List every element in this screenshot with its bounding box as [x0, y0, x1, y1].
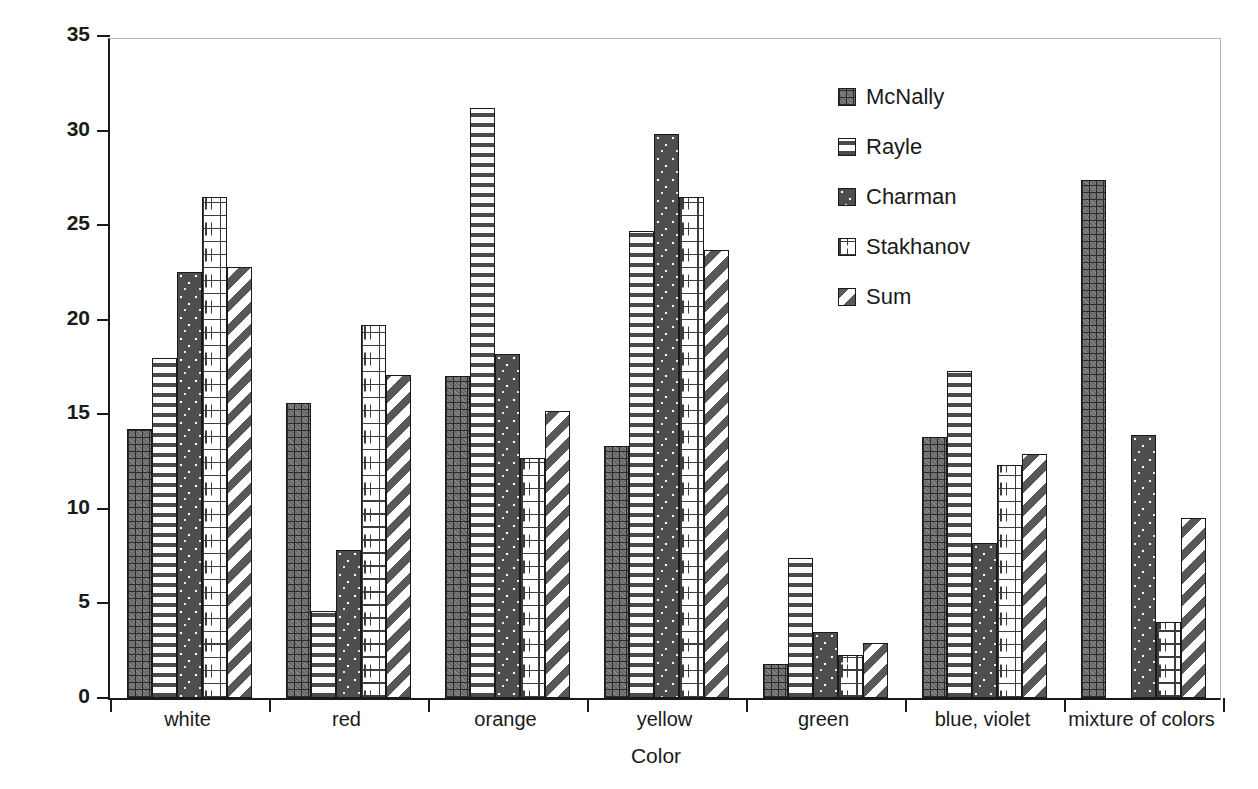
bar [997, 465, 1022, 698]
legend-item: Sum [838, 280, 1088, 313]
x-axis-category-label: red [332, 708, 361, 731]
y-axis-tick-mark [97, 602, 110, 604]
x-axis-title: Color [0, 744, 1258, 768]
y-axis-tick: 0 [66, 697, 110, 698]
bar [1156, 622, 1181, 698]
y-axis-tick-label: 25 [67, 211, 90, 235]
bar [679, 197, 704, 698]
bar-chart-figure: Percentage of Sample 05101520253035 whit… [0, 0, 1258, 789]
bar [311, 611, 336, 698]
y-axis-tick-mark [97, 224, 110, 226]
legend-swatch-icon [838, 188, 856, 206]
bar [788, 558, 813, 698]
legend-item-label: Sum [866, 284, 911, 310]
bar [922, 437, 947, 698]
bar [127, 429, 152, 698]
bar [1181, 518, 1206, 698]
y-axis-tick: 25 [66, 224, 110, 225]
y-axis-tick-mark [97, 697, 110, 699]
y-axis-tick: 10 [66, 508, 110, 509]
y-axis-tick-label: 0 [78, 684, 90, 708]
legend-swatch-icon [838, 238, 856, 256]
bar [863, 643, 888, 698]
bar [972, 543, 997, 698]
x-axis-category-label: mixture of colors [1068, 708, 1215, 731]
bar [286, 403, 311, 698]
x-axis-tick [1064, 698, 1066, 712]
y-axis-tick-mark [97, 35, 110, 37]
y-axis-tick-mark [97, 508, 110, 510]
chart-legend: McNallyRayleCharmanStakhanovSum [838, 80, 1088, 330]
bar [520, 458, 545, 698]
bar [654, 134, 679, 698]
x-axis-category-label: orange [474, 708, 536, 731]
x-axis-tick [587, 698, 589, 712]
bar [445, 376, 470, 698]
x-axis-tick [746, 698, 748, 712]
y-axis-tick: 15 [66, 413, 110, 414]
x-axis-tick [428, 698, 430, 712]
y-axis-tick-label: 15 [67, 400, 90, 424]
y-axis-tick-mark [97, 413, 110, 415]
bar [1131, 435, 1156, 698]
bar [386, 375, 411, 698]
y-axis-tick: 35 [66, 35, 110, 36]
bar [152, 358, 177, 698]
y-axis-tick-label: 30 [67, 117, 90, 141]
y-axis-tick: 5 [66, 602, 110, 603]
y-axis-tick-mark [97, 319, 110, 321]
bar [495, 354, 520, 698]
bar [763, 664, 788, 698]
legend-swatch-icon [838, 288, 856, 306]
legend-item-label: Rayle [866, 134, 922, 160]
x-axis-category-label: blue, violet [935, 708, 1031, 731]
bar [947, 371, 972, 698]
legend-item-label: Stakhanov [866, 234, 970, 260]
y-axis-tick-mark [97, 130, 110, 132]
bar [227, 267, 252, 698]
y-axis-tick-label: 10 [67, 495, 90, 519]
legend-item: Stakhanov [838, 230, 1088, 263]
y-axis-tick-label: 35 [67, 22, 90, 46]
bar [177, 272, 202, 698]
bar [838, 655, 863, 699]
y-axis-tick: 30 [66, 130, 110, 131]
bar [545, 411, 570, 698]
legend-item: Rayle [838, 130, 1088, 163]
legend-item-label: McNally [866, 84, 944, 110]
y-axis-tick: 20 [66, 319, 110, 320]
x-axis-category-label: yellow [637, 708, 693, 731]
legend-swatch-icon [838, 88, 856, 106]
x-axis-tick [269, 698, 271, 712]
bar [813, 632, 838, 698]
bar [629, 231, 654, 698]
legend-item: McNally [838, 80, 1088, 113]
bar [470, 108, 495, 698]
legend-swatch-icon [838, 138, 856, 156]
x-axis-category-label: green [798, 708, 849, 731]
x-axis-tick [110, 698, 112, 712]
bar [202, 197, 227, 698]
bar [604, 446, 629, 698]
bar [361, 325, 386, 698]
x-axis-title-text: Color [631, 744, 681, 767]
legend-item-label: Charman [866, 184, 956, 210]
legend-item: Charman [838, 180, 1088, 213]
y-axis-tick-label: 5 [78, 589, 90, 613]
bar [1022, 454, 1047, 698]
y-axis-tick-label: 20 [67, 306, 90, 330]
x-axis-tick [1223, 698, 1225, 712]
bar [704, 250, 729, 698]
x-axis-category-label: white [164, 708, 211, 731]
bar [336, 550, 361, 698]
x-axis-tick [905, 698, 907, 712]
